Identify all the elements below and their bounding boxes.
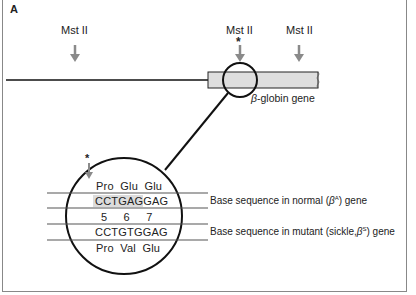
normal-caption: Base sequence in normal (βA) gene <box>210 195 367 206</box>
cut-marker: * <box>85 152 89 164</box>
mutant-sequence: CCTGTGGAG <box>95 226 168 238</box>
normal-sequence: CCTGAGGAG <box>95 195 168 207</box>
normal-amino-acids: Pro Glu Glu <box>96 180 162 192</box>
mutant-amino-acids: Pro Val Glu <box>96 242 160 254</box>
mst2-label-1: Mst II <box>61 24 88 36</box>
mst2-label-3: Mst II <box>286 24 313 36</box>
magnify-connector <box>165 93 228 170</box>
panel-label: A <box>10 3 18 15</box>
mst2-arrow-1 <box>70 45 80 62</box>
mutant-caption: Base sequence in mutant (sickle,βS) gene <box>210 226 395 237</box>
mutation-star: * <box>236 35 241 49</box>
diagram-graphics <box>0 0 416 295</box>
mst2-arrow-3 <box>294 45 304 62</box>
codon-numbers: 5 6 7 <box>101 211 153 223</box>
gene-label: β-globin gene <box>251 92 315 104</box>
